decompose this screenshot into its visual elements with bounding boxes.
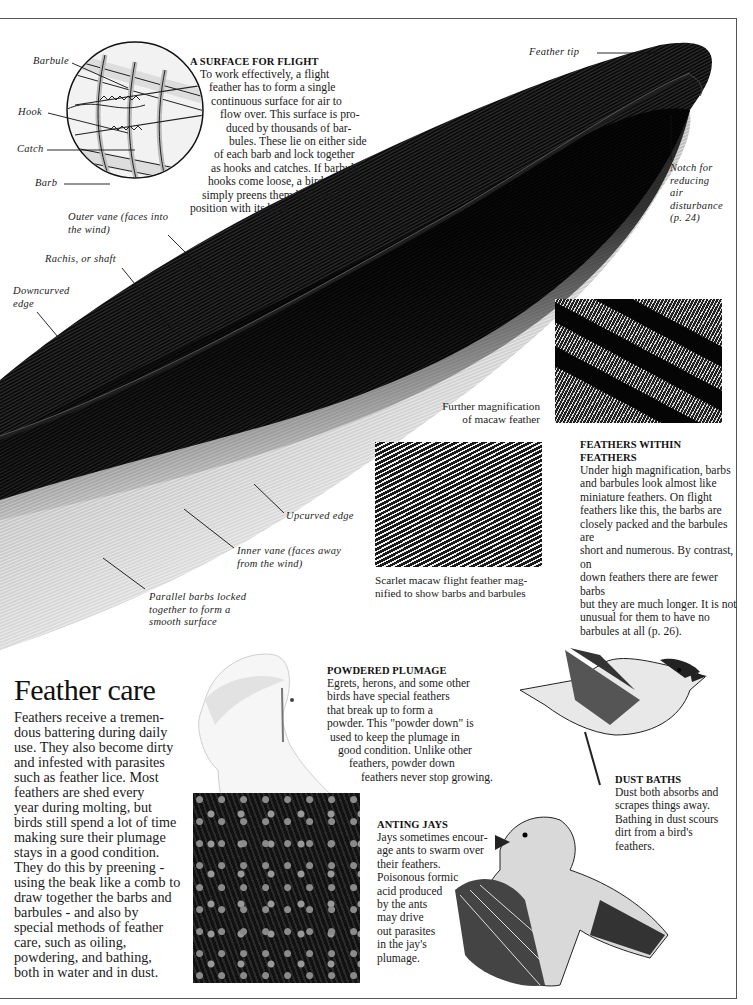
text-line: draw together the barbs and bbox=[14, 890, 194, 905]
macaw-further-magnification-photo bbox=[555, 299, 722, 423]
text-line: of each barb and lock together bbox=[190, 148, 370, 161]
text-line: may drive bbox=[377, 911, 497, 924]
text-line: reducing bbox=[670, 175, 723, 188]
text-line: barbules at all (p. 26). bbox=[580, 625, 740, 638]
text-line: unusual for them to have no bbox=[580, 611, 740, 624]
text-line: closely packed and the barbules are bbox=[580, 518, 740, 545]
text-line: Egrets, herons, and some other bbox=[327, 677, 517, 690]
text-line: Outer vane (faces into bbox=[68, 211, 168, 224]
powdered-plumage-block: POWDERED PLUMAGE Egrets, herons, and som… bbox=[327, 664, 517, 784]
text-line: barbules - and also by bbox=[14, 905, 194, 920]
surface-for-flight-heading: A SURFACE FOR FLIGHT bbox=[190, 55, 370, 68]
text-line: good condition. Unlike other bbox=[327, 744, 517, 757]
label-parallel-barbs: Parallel barbs locked together to form a… bbox=[149, 591, 246, 629]
label-notch: Notch for reducing air disturbance (p. 2… bbox=[670, 162, 723, 225]
macaw-barbs-magnified-photo bbox=[375, 442, 542, 567]
text-line: care, such as oiling, bbox=[14, 935, 194, 950]
text-line: and infested with parasites bbox=[14, 755, 194, 770]
text-line: such as feather lice. Most bbox=[14, 770, 194, 785]
text-line: Downcurved bbox=[13, 285, 70, 298]
label-rachis: Rachis, or shaft bbox=[45, 253, 116, 266]
text-line: nified to show barbs and barbules bbox=[375, 587, 560, 600]
text-line: and barbules look almost like bbox=[580, 477, 740, 490]
text-line: down feathers there are fewer barbs bbox=[580, 571, 740, 598]
text-line: from the wind) bbox=[237, 558, 341, 571]
text-line: special methods of feather bbox=[14, 920, 194, 935]
section-body: Feathers receive a tremen- dous batterin… bbox=[14, 710, 194, 980]
text-line: simply preens them back into bbox=[190, 189, 370, 202]
text-line: position with its beak. bbox=[190, 202, 370, 215]
text-line: of macaw feather bbox=[400, 413, 540, 426]
text-line: feathers, powder down bbox=[327, 757, 517, 770]
text-line: scrapes things away. bbox=[615, 799, 735, 812]
text-line: age ants to swarm over bbox=[377, 844, 497, 857]
text-line: year during molting, but bbox=[14, 800, 194, 815]
text-line: used to keep the plumage in bbox=[327, 731, 517, 744]
text-line: feathers are shed every bbox=[14, 785, 194, 800]
text-line: To work effectively, a flight bbox=[190, 68, 370, 81]
text-line: short and numerous. By contrast, on bbox=[580, 544, 740, 571]
text-line: Inner vane (faces away bbox=[237, 545, 341, 558]
text-line: feathers like this, the barbs are bbox=[580, 504, 740, 517]
label-hook: Hook bbox=[18, 106, 42, 119]
text-line: They do this by preening - bbox=[14, 860, 194, 875]
dust-baths-heading: DUST BATHS bbox=[615, 773, 735, 786]
text-line: air bbox=[670, 187, 723, 200]
text-line: out parasites bbox=[377, 925, 497, 938]
text-line: Scarlet macaw flight feather mag- bbox=[375, 574, 560, 587]
label-outer-vane: Outer vane (faces into the wind) bbox=[68, 211, 168, 236]
label-catch: Catch bbox=[17, 143, 44, 156]
label-barb: Barb bbox=[35, 177, 57, 190]
text-line: powdering, and bathing, bbox=[14, 950, 194, 965]
dust-baths-block: DUST BATHS Dust both absorbs and scrapes… bbox=[615, 773, 735, 853]
text-line: the wind) bbox=[68, 224, 168, 237]
text-line: dous battering during daily bbox=[14, 725, 194, 740]
text-line: together to form a bbox=[149, 604, 246, 617]
surface-for-flight-block: A SURFACE FOR FLIGHT To work effectively… bbox=[190, 55, 370, 215]
text-line: birds still spend a lot of time bbox=[14, 815, 194, 830]
scarlet-macaw-caption: Scarlet macaw flight feather mag- nified… bbox=[375, 574, 560, 601]
text-line: feathers never stop growing. bbox=[327, 771, 517, 784]
text-line: smooth surface bbox=[149, 616, 246, 629]
text-line: Feathers receive a tremen- bbox=[14, 710, 194, 725]
label-feather-tip: Feather tip bbox=[529, 46, 579, 59]
powdered-plumage-heading: POWDERED PLUMAGE bbox=[327, 664, 517, 677]
text-line: bules. These lie on either side bbox=[190, 135, 370, 148]
text-line: dirt from a bird's bbox=[615, 826, 735, 839]
text-line: as hooks and catches. If barbule bbox=[190, 162, 370, 175]
text-line: Notch for bbox=[670, 162, 723, 175]
label-downcurved-edge: Downcurved edge bbox=[13, 285, 70, 310]
section-title: Feather care bbox=[14, 673, 155, 707]
text-line: (p. 24) bbox=[670, 212, 723, 225]
text-line: feather has to form a single bbox=[190, 81, 370, 94]
text-line: hooks come loose, a bird bbox=[190, 175, 370, 188]
text-line: their feathers. bbox=[377, 858, 497, 871]
label-inner-vane: Inner vane (faces away from the wind) bbox=[237, 545, 341, 570]
text-line: Parallel barbs locked bbox=[149, 591, 246, 604]
text-line: Further magnification bbox=[400, 400, 540, 413]
text-line: Poisonous formic bbox=[377, 871, 497, 884]
feathers-within-feathers-block: FEATHERS WITHIN FEATHERS Under high magn… bbox=[580, 438, 740, 638]
text-line: Bathing in dust scours bbox=[615, 813, 735, 826]
text-line: but they are much longer. It is not bbox=[580, 598, 740, 611]
text-line: feathers. bbox=[615, 840, 735, 853]
label-barbule: Barbule bbox=[33, 55, 69, 68]
text-line: Dust both absorbs and bbox=[615, 786, 735, 799]
sparrow-illustration bbox=[520, 648, 707, 785]
text-line: plumage. bbox=[377, 952, 497, 965]
text-line: flow over. This surface is pro- bbox=[190, 108, 370, 121]
text-line: disturbance bbox=[670, 200, 723, 213]
anting-jays-block: ANTING JAYS Jays sometimes encour- age a… bbox=[377, 818, 497, 965]
text-line: using the beak like a comb to bbox=[14, 875, 194, 890]
egret-vegetation-photo bbox=[193, 793, 360, 983]
text-line: use. They also become dirty bbox=[14, 740, 194, 755]
feathers-within-feathers-heading: FEATHERS WITHIN FEATHERS bbox=[580, 438, 740, 464]
text-line: birds have special feathers bbox=[327, 690, 517, 703]
text-line: powder. This "powder down" is bbox=[327, 717, 517, 730]
text-line: stays in a good condition. bbox=[14, 845, 194, 860]
text-line: Under high magnification, barbs bbox=[580, 464, 740, 477]
text-line: making sure their plumage bbox=[14, 830, 194, 845]
label-upcurved-edge: Upcurved edge bbox=[286, 510, 354, 523]
text-line: acid produced bbox=[377, 885, 497, 898]
text-line: that break up to form a bbox=[327, 704, 517, 717]
